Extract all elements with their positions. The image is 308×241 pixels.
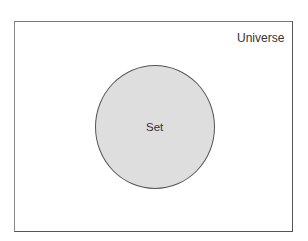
set-label: Set <box>146 121 163 133</box>
universe-label: Universe <box>237 31 284 45</box>
